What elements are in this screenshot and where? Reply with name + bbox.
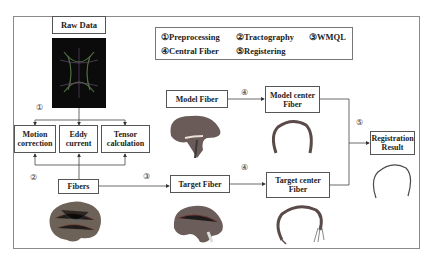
tensor-calculation-label: Tensorcalculation	[107, 130, 144, 148]
legend-preprocessing: ①Preprocessing	[161, 32, 220, 42]
model-fiber-label: Model Fiber	[176, 95, 218, 104]
target-fiber-node: Target Fiber	[170, 175, 230, 193]
legend-tractography: ②Tractography	[236, 32, 294, 42]
model-center-fiber-label: Model centerFiber	[270, 91, 315, 109]
step-marker-wmql: ③	[143, 172, 150, 181]
target-center-fiber-node: Target centerFiber	[266, 172, 330, 198]
dti-brain-icon	[52, 38, 106, 108]
label-line: Tensor	[114, 130, 137, 139]
label-line: Result	[382, 143, 404, 152]
step-marker-registering: ⑤	[356, 118, 363, 127]
model-fiber-image	[167, 110, 227, 164]
eddy-current-label: Eddycurrent	[66, 130, 92, 148]
model-fiber-node: Model Fiber	[166, 90, 228, 108]
brain-icon	[45, 198, 105, 244]
label-line: Target center	[275, 176, 321, 185]
target-fiber-label: Target Fiber	[178, 180, 221, 189]
label-line: Model center	[270, 91, 315, 100]
legend-central-fiber: ④Central Fiber	[161, 46, 219, 56]
label-line: Fiber	[289, 185, 308, 194]
registration-curve-icon	[370, 158, 416, 202]
target-fiber-image	[168, 198, 228, 250]
model-center-fiber-node: Model centerFiber	[265, 86, 320, 113]
center-curve-icon	[268, 115, 318, 157]
legend: ①Preprocessing ②Tractography ③WMQL ④Cent…	[155, 27, 353, 60]
target-center-fiber-image	[272, 200, 328, 250]
model-center-fiber-image	[268, 115, 318, 161]
label-line: Registration	[371, 134, 413, 143]
legend-registering: ⑤Registering	[236, 46, 286, 56]
eddy-current-node: Eddycurrent	[59, 125, 98, 153]
fiber-bundle-icon	[168, 198, 228, 246]
label-line: current	[66, 139, 92, 148]
registration-result-label: RegistrationResult	[371, 134, 413, 152]
whole-brain-fibers-image	[45, 198, 105, 248]
label-line: calculation	[107, 139, 144, 148]
step-marker-central-model: ④	[241, 88, 248, 97]
motion-correction-label: Motioncorrection	[18, 130, 53, 148]
target-center-fiber-label: Target centerFiber	[275, 176, 321, 194]
step-marker-preprocessing: ①	[36, 103, 43, 112]
step-marker-tractography: ②	[30, 173, 37, 182]
step-marker-central-target: ④	[241, 163, 248, 172]
motion-correction-node: Motioncorrection	[14, 125, 56, 153]
label-line: Motion	[23, 130, 48, 139]
legend-wmql: ③WMQL	[309, 32, 346, 42]
fibers-label: Fibers	[68, 182, 90, 191]
fibers-node: Fibers	[58, 179, 99, 194]
raw-data-node: Raw Data	[52, 16, 106, 34]
raw-dti-image	[52, 38, 106, 108]
label-line: correction	[18, 139, 53, 148]
center-curve-icon	[272, 200, 328, 246]
fiber-bundle-icon	[167, 110, 227, 160]
tensor-calculation-node: Tensorcalculation	[101, 125, 150, 153]
registration-result-node: RegistrationResult	[370, 131, 415, 155]
raw-data-label: Raw Data	[61, 21, 97, 30]
label-line: Eddy	[69, 130, 87, 139]
registration-result-image	[370, 158, 416, 206]
label-line: Fiber	[283, 100, 302, 109]
